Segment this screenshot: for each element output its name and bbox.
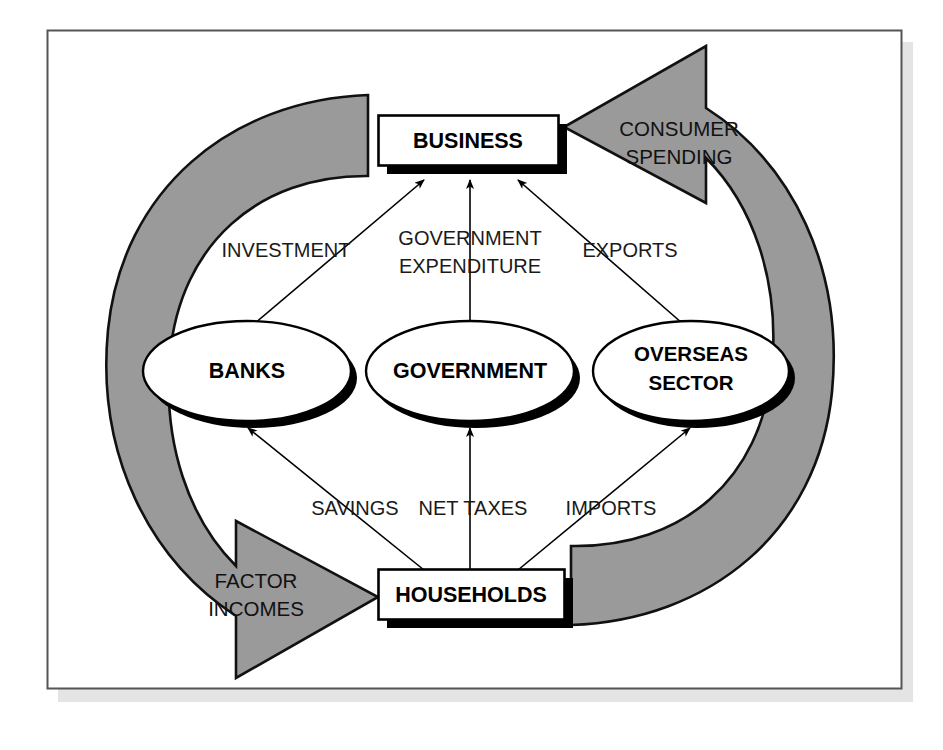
government-label: GOVERNMENT bbox=[393, 359, 547, 383]
exports-label: EXPORTS bbox=[582, 239, 677, 261]
government-expenditure-label-line1: GOVERNMENT bbox=[398, 227, 541, 249]
node-households[interactable]: HOUSEHOLDS bbox=[379, 570, 574, 629]
government-expenditure-label-line2: EXPENDITURE bbox=[399, 255, 541, 277]
factor-incomes-label-line2: INCOMES bbox=[208, 597, 304, 620]
net-taxes-label: NET TAXES bbox=[419, 497, 528, 519]
overseas-sector-label-line2: SECTOR bbox=[648, 371, 733, 394]
node-business[interactable]: BUSINESS bbox=[379, 116, 568, 175]
circular-flow-diagram: FACTOR INCOMES CONSUMER SPENDING BANKS bbox=[0, 0, 943, 750]
factor-incomes-label-line1: FACTOR bbox=[215, 569, 298, 592]
overseas-sector-label-line1: OVERSEAS bbox=[634, 342, 748, 365]
banks-label: BANKS bbox=[209, 359, 285, 383]
diagram-canvas: FACTOR INCOMES CONSUMER SPENDING BANKS bbox=[0, 0, 943, 750]
consumer-spending-label-line1: CONSUMER bbox=[619, 117, 739, 140]
imports-label: IMPORTS bbox=[566, 497, 657, 519]
investment-label: INVESTMENT bbox=[222, 239, 351, 261]
households-label: HOUSEHOLDS bbox=[395, 583, 547, 607]
consumer-spending-label-line2: SPENDING bbox=[625, 145, 732, 168]
leakage-labels: SAVINGS NET TAXES IMPORTS bbox=[311, 497, 656, 519]
business-label: BUSINESS bbox=[413, 129, 523, 153]
savings-label: SAVINGS bbox=[311, 497, 398, 519]
